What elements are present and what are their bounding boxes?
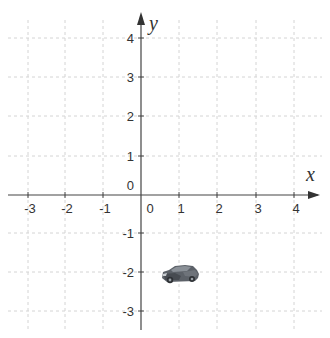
x-axis-label: x <box>305 163 315 185</box>
y-tick-label: 2 <box>127 109 134 124</box>
x-tick-label: 1 <box>177 201 184 216</box>
coordinate-plane: -3 -2 -1 0 1 2 3 4 x 4 3 2 1 0 -1 -2 -3 … <box>0 0 330 338</box>
x-axis: -3 -2 -1 0 1 2 3 4 x <box>8 163 320 216</box>
y-tick-label: -3 <box>122 304 134 319</box>
grid <box>8 20 322 330</box>
x-tick-label: 4 <box>292 201 299 216</box>
y-tick-label: -2 <box>122 265 134 280</box>
y-tick-label: 4 <box>127 31 134 46</box>
x-tick-label: 2 <box>215 201 222 216</box>
x-axis-arrow-icon <box>308 191 320 199</box>
y-axis: 4 3 2 1 0 -1 -2 -3 y <box>122 12 158 330</box>
origin-label: 0 <box>127 178 134 193</box>
x-tick-label: -1 <box>99 201 111 216</box>
x-tick-label: 3 <box>254 201 261 216</box>
y-tick-label: 3 <box>127 70 134 85</box>
y-tick-label: 1 <box>127 149 134 164</box>
car-icon <box>162 265 199 283</box>
x-tick-label: -3 <box>24 201 36 216</box>
y-tick-label: -1 <box>122 226 134 241</box>
x-tick-label: 0 <box>146 201 153 216</box>
y-axis-label: y <box>147 12 158 35</box>
x-tick-label: -2 <box>61 201 73 216</box>
y-axis-arrow-icon <box>137 12 145 25</box>
